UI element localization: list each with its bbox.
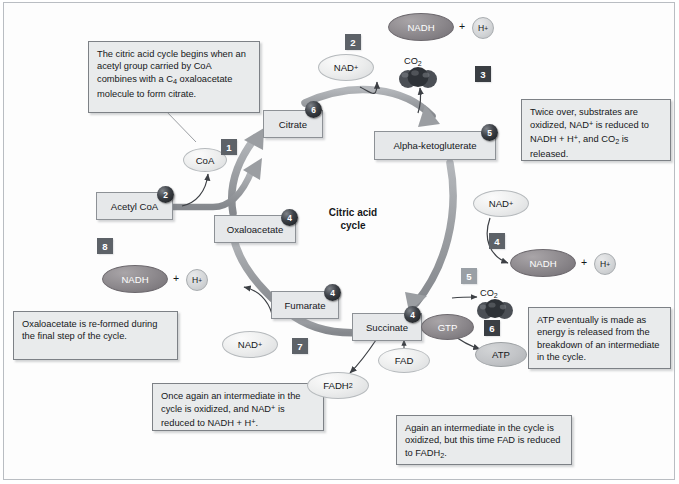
metabolite-label: Succinate bbox=[366, 322, 408, 333]
plus-sign-left: + bbox=[173, 272, 179, 284]
molecule-fadh2[interactable]: FADH2 bbox=[307, 372, 369, 399]
plus-sign-top: + bbox=[459, 20, 465, 32]
cycle-title-line2: cycle bbox=[340, 220, 365, 231]
callout-oxidized-twice: Twice over, substrates are oxidized, NAD… bbox=[521, 99, 671, 161]
metabolite-label: Acetyl CoA bbox=[111, 201, 158, 212]
label-co2-top: CO2 bbox=[404, 56, 422, 67]
callout-fad: Again an intermediate in the cycle is ox… bbox=[396, 415, 572, 465]
plus-sign-right: + bbox=[581, 256, 587, 268]
callout-atp: ATP eventually is made as energy is rele… bbox=[528, 307, 671, 369]
metabolite-label: Fumarate bbox=[284, 300, 325, 311]
label-co2-right: CO2 bbox=[480, 288, 498, 299]
molecule-hplus-right[interactable]: H+ bbox=[594, 253, 616, 275]
molecule-nad-bottom[interactable]: NAD+ bbox=[222, 331, 278, 358]
molecule-nad-right[interactable]: NAD+ bbox=[473, 190, 529, 217]
step-4[interactable]: 4 bbox=[489, 233, 505, 249]
co2-molecule-right bbox=[476, 299, 514, 320]
step-2[interactable]: 2 bbox=[345, 34, 361, 50]
diagram-canvas: The citric acid cycle begins when an ace… bbox=[0, 0, 679, 484]
carbon-badge-oxaloacetate: 4 bbox=[281, 209, 298, 226]
molecule-hplus-top[interactable]: H+ bbox=[472, 17, 494, 39]
metabolite-label: Alpha-ketogluterate bbox=[393, 140, 476, 151]
carbon-badge-fumarate: 4 bbox=[324, 284, 341, 301]
cycle-title-line1: Citric acid bbox=[329, 207, 377, 218]
molecule-nadh-top[interactable]: NADH bbox=[388, 13, 454, 41]
molecule-nad-top[interactable]: NAD+ bbox=[318, 54, 374, 81]
molecule-gtp[interactable]: GTP bbox=[421, 314, 474, 340]
carbon-badge-citrate: 6 bbox=[305, 101, 322, 118]
callout-intro: The citric acid cycle begins when an ace… bbox=[88, 41, 260, 113]
molecule-fad[interactable]: FAD bbox=[378, 348, 430, 373]
co2-molecule-top bbox=[398, 67, 438, 89]
step-3[interactable]: 3 bbox=[475, 66, 491, 82]
carbon-badge-acetyl-coa: 2 bbox=[157, 186, 174, 203]
carbon-badge-alpha-ketogluterate: 5 bbox=[481, 124, 498, 141]
molecule-nadh-right[interactable]: NADH bbox=[510, 249, 576, 277]
carbon-badge-succinate: 4 bbox=[404, 306, 421, 323]
molecule-nadh-left[interactable]: NADH bbox=[102, 265, 168, 293]
molecule-hplus-left[interactable]: H+ bbox=[186, 269, 208, 291]
metabolite-label: Oxaloacetate bbox=[227, 224, 284, 235]
metabolite-label: Citrate bbox=[279, 119, 307, 130]
callout-oxaloacetate-reformed: Oxaloacetate is re-formed during the fin… bbox=[13, 311, 178, 360]
callout-nad-again: Once again an intermediate in the cycle … bbox=[152, 383, 324, 431]
molecule-atp[interactable]: ATP bbox=[475, 342, 527, 367]
step-8[interactable]: 8 bbox=[97, 238, 113, 254]
step-1[interactable]: 1 bbox=[221, 139, 237, 155]
step-7[interactable]: 7 bbox=[292, 338, 308, 354]
step-5[interactable]: 5 bbox=[461, 268, 477, 284]
step-6[interactable]: 6 bbox=[484, 320, 500, 336]
cycle-title: Citric acid cycle bbox=[308, 206, 398, 232]
metabolite-alpha-ketogluterate[interactable]: Alpha-ketogluterate bbox=[374, 131, 496, 160]
